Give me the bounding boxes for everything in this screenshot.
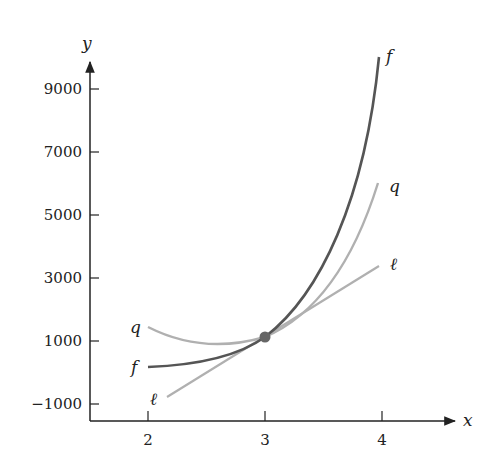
y-ticks	[90, 89, 99, 404]
y-tick-label: 7000	[44, 143, 82, 161]
label-f-left: f	[129, 357, 140, 377]
axes	[90, 62, 455, 421]
x-axis-label: x	[463, 410, 473, 430]
y-tick-label: −1000	[31, 395, 82, 413]
chart-canvas: 9000 7000 5000 3000 1000 −1000 2 3 4 y x…	[0, 0, 491, 471]
x-tick-labels: 2 3 4	[143, 431, 387, 449]
x-ticks	[148, 411, 382, 421]
label-q-left: q	[130, 317, 141, 337]
series-f-curve	[148, 57, 379, 367]
y-tick-label: 3000	[44, 269, 82, 287]
label-l-right: ℓ	[390, 254, 397, 274]
x-tick-label: 3	[260, 431, 270, 449]
x-tick-label: 4	[377, 431, 387, 449]
y-tick-label: 9000	[44, 80, 82, 98]
tangent-point	[260, 332, 271, 343]
label-l-left: ℓ	[150, 389, 157, 409]
y-tick-label: 1000	[44, 332, 82, 350]
label-q-right: q	[389, 176, 400, 196]
label-f-right: f	[384, 46, 395, 66]
y-axis-label: y	[81, 33, 92, 53]
y-tick-label: 5000	[44, 206, 82, 224]
x-tick-label: 2	[143, 431, 153, 449]
series-q-curve	[148, 183, 378, 344]
y-tick-labels: 9000 7000 5000 3000 1000 −1000	[31, 80, 82, 413]
